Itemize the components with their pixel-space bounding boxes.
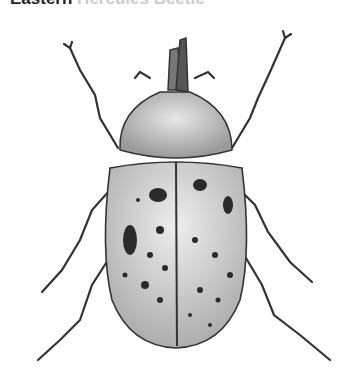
beetle-illustration (0, 0, 348, 389)
